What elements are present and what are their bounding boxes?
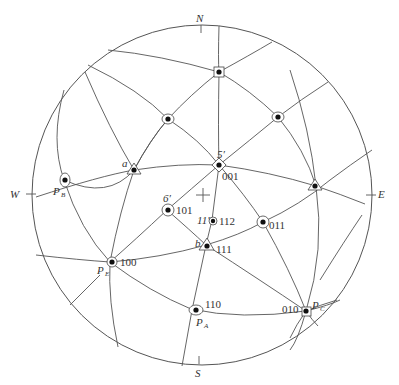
label-PA-sub: A: [203, 322, 209, 330]
label-b: b: [195, 237, 201, 249]
label-PC: P: [311, 299, 319, 311]
west-label: W: [10, 188, 20, 200]
label-PC-sub: C: [320, 305, 325, 313]
label-a: a: [122, 157, 128, 169]
label-010: 010: [282, 303, 299, 315]
pole-top: [214, 67, 224, 77]
label-001: 001: [222, 170, 239, 182]
label-PB: P: [52, 185, 60, 197]
center-cross: [196, 188, 210, 202]
pole-011: [257, 216, 269, 228]
label-6prime: 6′: [163, 192, 172, 204]
label-PB-sub: B: [61, 191, 66, 199]
pole-101: [162, 204, 174, 216]
label-11prime: 11′: [197, 214, 210, 226]
south-label: S: [195, 367, 201, 379]
pole-110: [189, 305, 203, 315]
label-101: 101: [176, 204, 193, 216]
pole-upper-right: [272, 112, 284, 122]
north-label: N: [195, 12, 204, 24]
label-5prime: 5′: [217, 148, 226, 160]
label-111: 111: [216, 243, 232, 255]
pole-upper-left: [162, 114, 174, 124]
pole-111: [199, 238, 214, 250]
label-PE-sub: E: [104, 270, 110, 278]
east-label: E: [377, 188, 385, 200]
label-PA: P: [195, 316, 203, 328]
label-110: 110: [205, 298, 222, 310]
zone-curves: [36, 26, 372, 366]
pole-PB: [60, 173, 70, 187]
pole-a: [127, 163, 141, 174]
label-011: 011: [269, 219, 285, 231]
label-PE: P: [96, 264, 104, 276]
label-100: 100: [120, 256, 137, 268]
pole-100: [107, 257, 117, 267]
stereographic-projection: N S W E: [0, 0, 399, 385]
pole-010: [302, 307, 311, 316]
label-112: 112: [219, 215, 235, 227]
pole-112: [209, 217, 217, 225]
